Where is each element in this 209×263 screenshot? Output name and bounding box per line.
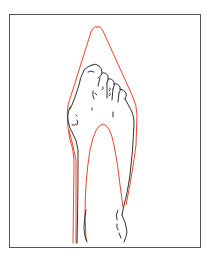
shoe-foot-illustration — [0, 0, 209, 263]
foot-outline — [68, 64, 134, 243]
